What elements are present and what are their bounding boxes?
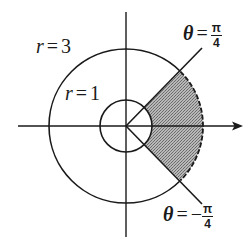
- label-r3-var: r: [36, 35, 44, 57]
- polar-region-diagram: r=3 r=1 θ=π4 θ=−π4: [0, 0, 250, 239]
- label-upper-ray: θ=π4: [183, 22, 222, 49]
- label-r3-value: 3: [61, 35, 71, 57]
- label-upper-equals: =: [193, 22, 210, 44]
- label-lower-fraction: π4: [202, 203, 213, 230]
- label-r1-equals: =: [73, 82, 90, 104]
- label-outer-circle: r=3: [36, 36, 71, 56]
- label-r1-value: 1: [90, 82, 100, 104]
- label-upper-denominator: 4: [211, 36, 222, 49]
- label-lower-theta: θ: [163, 203, 173, 225]
- label-lower-denominator: 4: [202, 217, 213, 230]
- label-lower-numerator: π: [202, 203, 213, 217]
- label-r1-var: r: [65, 82, 73, 104]
- label-upper-fraction: π4: [211, 22, 222, 49]
- label-upper-numerator: π: [211, 22, 222, 36]
- label-inner-circle: r=1: [65, 83, 100, 103]
- label-lower-equals: =: [173, 203, 190, 225]
- label-r3-equals: =: [44, 35, 61, 57]
- label-lower-sign: −: [191, 203, 202, 225]
- label-lower-ray: θ=−π4: [163, 203, 213, 230]
- label-upper-theta: θ: [183, 22, 193, 44]
